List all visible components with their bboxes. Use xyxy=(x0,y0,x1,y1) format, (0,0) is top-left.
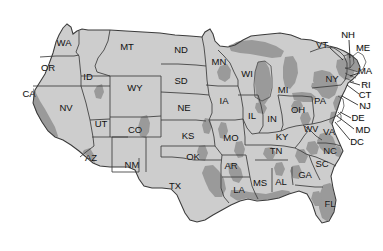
state-label-ga: GA xyxy=(298,170,312,180)
state-label-ok: OK xyxy=(186,152,200,162)
state-label-wy: WY xyxy=(127,83,142,93)
state-label-or: OR xyxy=(41,63,55,73)
state-label-ky: KY xyxy=(276,132,289,142)
state-label-ma: MA xyxy=(358,66,372,76)
state-label-sd: SD xyxy=(174,76,187,86)
state-label-nc: NC xyxy=(323,146,337,156)
state-label-ks: KS xyxy=(182,131,195,141)
state-label-wa: WA xyxy=(57,38,72,48)
state-label-dc: DC xyxy=(350,137,364,147)
state-label-me: ME xyxy=(356,43,370,53)
state-label-al: AL xyxy=(275,177,287,187)
state-label-ne: NE xyxy=(177,103,190,113)
state-label-ar: AR xyxy=(224,161,237,171)
state-label-ms: MS xyxy=(253,178,267,188)
state-label-ca: CA xyxy=(22,89,35,99)
state-label-pa: PA xyxy=(314,96,326,106)
state-label-mn: MN xyxy=(212,57,227,67)
state-label-az: AZ xyxy=(85,153,97,163)
state-label-id: ID xyxy=(83,72,93,82)
state-label-de: DE xyxy=(351,113,364,123)
state-label-wv: WV xyxy=(304,124,319,134)
us-map-figure: WA OR CA NV ID MT WY UT AZ CO NM ND SD N… xyxy=(0,0,383,251)
state-label-ia: IA xyxy=(220,96,229,106)
state-label-nh: NH xyxy=(341,30,355,40)
state-label-vt: VT xyxy=(316,40,328,50)
state-label-md: MD xyxy=(356,125,371,135)
state-label-nm: NM xyxy=(125,160,140,170)
state-label-nj: NJ xyxy=(359,101,371,111)
state-label-sc: SC xyxy=(315,159,328,169)
state-label-nv: NV xyxy=(59,103,72,113)
state-label-co: CO xyxy=(128,125,142,135)
state-label-la: LA xyxy=(233,185,245,195)
state-label-va: VA xyxy=(323,127,335,137)
state-label-tx: TX xyxy=(169,181,181,191)
state-label-oh: OH xyxy=(291,105,305,115)
state-label-tn: TN xyxy=(270,146,283,156)
state-label-nd: ND xyxy=(174,45,188,55)
state-label-il: IL xyxy=(248,111,256,121)
state-label-mt: MT xyxy=(120,42,134,52)
state-label-ny: NY xyxy=(325,74,338,84)
state-label-mi: MI xyxy=(278,85,289,95)
state-label-fl: FL xyxy=(324,199,335,209)
state-label-in: IN xyxy=(267,114,277,124)
state-label-wi: WI xyxy=(241,69,253,79)
state-label-mo: MO xyxy=(223,133,238,143)
state-label-ct: CT xyxy=(359,90,372,100)
state-label-ut: UT xyxy=(95,119,108,129)
